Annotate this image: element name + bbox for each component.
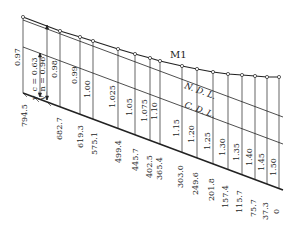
svg-text:0.98: 0.98	[50, 60, 59, 78]
svg-text:1.00: 1.00	[83, 80, 92, 98]
svg-text:1.50: 1.50	[269, 158, 278, 176]
svg-text:1.45: 1.45	[257, 153, 266, 171]
m1-backwater-profile-diagram: M1 N. D. L. C. D. L. y_c = 0.63 y_n = 0.…	[0, 0, 293, 230]
svg-text:445.7: 445.7	[131, 148, 140, 171]
svg-text:1.025: 1.025	[108, 85, 117, 108]
svg-text:575.1: 575.1	[90, 132, 99, 155]
svg-text:499.4: 499.4	[114, 140, 123, 163]
svg-text:1.25: 1.25	[203, 132, 212, 150]
svg-text:303.0: 303.0	[176, 165, 185, 188]
cdl-label: C. D. L.	[183, 99, 216, 119]
svg-text:0.97: 0.97	[13, 48, 22, 66]
svg-text:0: 0	[272, 209, 281, 214]
svg-text:201.8: 201.8	[207, 178, 216, 201]
svg-text:75.7: 75.7	[249, 199, 258, 217]
svg-text:1.05: 1.05	[125, 98, 134, 116]
svg-text:682.7: 682.7	[55, 117, 64, 140]
svg-text:157.4: 157.4	[221, 185, 230, 208]
yn-label: y_n = 0.96	[38, 57, 47, 101]
svg-text:115.7: 115.7	[235, 190, 244, 213]
svg-text:1.20: 1.20	[187, 125, 196, 143]
svg-text:249.6: 249.6	[191, 172, 200, 195]
svg-text:1.35: 1.35	[232, 143, 241, 161]
svg-text:1.15: 1.15	[172, 119, 181, 137]
svg-text:1.075: 1.075	[140, 99, 149, 122]
m1-label: M1	[170, 49, 187, 60]
svg-text:365.4: 365.4	[155, 157, 164, 180]
svg-text:37.3: 37.3	[261, 202, 270, 220]
ndl-label: N. D. L.	[182, 80, 217, 101]
svg-text:0.99: 0.99	[70, 66, 79, 84]
svg-text:794.5: 794.5	[20, 104, 29, 127]
svg-text:1.40: 1.40	[245, 148, 254, 166]
svg-text:1.30: 1.30	[218, 138, 227, 156]
svg-text:1.10: 1.10	[150, 102, 159, 120]
svg-text:619.3: 619.3	[76, 125, 85, 148]
svg-text:402.5: 402.5	[145, 155, 154, 178]
